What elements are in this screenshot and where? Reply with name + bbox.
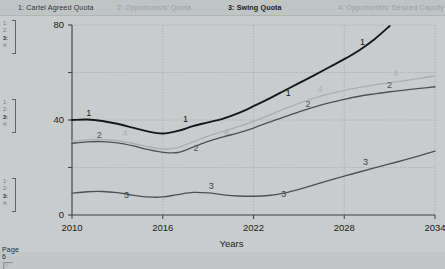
document-footer-strip [0, 252, 445, 269]
series-1-marker-label: 1 [86, 108, 91, 118]
legend-item-4[interactable]: 4: Opportunists' Desired Capcity [338, 2, 444, 13]
series-2-marker-label: 2 [97, 130, 102, 140]
series-3-marker-label: 3 [363, 157, 368, 167]
series-3-marker-label: 3 [209, 181, 214, 191]
series-2-marker-label: 2 [387, 80, 392, 90]
series-4-marker-label: 4 [318, 84, 323, 94]
chart-gridlines [72, 25, 435, 215]
line-chart: 1111222233334444 04080201020162022202820… [16, 15, 445, 252]
rail-bracket-2: 1: 2: 3: 4: [3, 99, 16, 133]
series-3-marker-label: 3 [124, 190, 129, 200]
series-2-marker-label: 2 [305, 99, 310, 109]
legend-item-1[interactable]: 1: Cartel Agreed Quota [18, 2, 94, 13]
page-curl-edge-icon [3, 262, 13, 269]
rail-bracket-1-line-3: 3: [3, 35, 15, 42]
rail-bracket-2-line-2: 2: [3, 106, 15, 113]
legend-item-3[interactable]: 3: Swing Quota [228, 2, 282, 13]
xtick-label-2022: 2022 [243, 222, 264, 233]
chart-legend: 1: Cartel Agreed Quota 2: Opportunists' … [0, 0, 445, 16]
chart-point-labels: 1111222233334444 [86, 37, 398, 200]
rail-bracket-2-line-4: 4: [3, 121, 15, 128]
rail-bracket-2-line-3: 3: [3, 114, 15, 121]
rail-bracket-2-line-1: 1: [3, 99, 15, 106]
rail-bracket-3-line-4: 4: [3, 200, 15, 207]
rail-bracket-1-line-2: 2: [3, 27, 15, 34]
series-3-marker-label: 3 [281, 189, 286, 199]
xtick-label-2016: 2016 [152, 222, 173, 233]
left-rail: 1: 2: 3: 4: 1: 2: 3: 4: 1: 2: 3: 4: Page… [0, 15, 16, 252]
rail-bracket-3-line-3: 3: [3, 193, 15, 200]
xtick-label-2034: 2034 [424, 222, 445, 233]
rail-bracket-3-line-2: 2: [3, 185, 15, 192]
rail-bracket-3-line-1: 1: [3, 178, 15, 185]
screenshot-root: 1: Cartel Agreed Quota 2: Opportunists' … [0, 0, 445, 269]
series-line-1 [72, 26, 390, 134]
rail-bracket-1: 1: 2: 3: 4: [3, 20, 16, 54]
series-2-marker-label: 2 [194, 143, 199, 153]
ytick-label-80: 80 [53, 19, 64, 30]
series-1-marker-label: 1 [360, 37, 365, 47]
rail-bracket-1-line-1: 1: [3, 20, 15, 27]
xtick-label-2028: 2028 [334, 222, 355, 233]
ytick-label-40: 40 [53, 114, 64, 125]
chart-area: 1111222233334444 04080201020162022202820… [16, 15, 445, 252]
xtick-label-2010: 2010 [61, 222, 82, 233]
series-4-marker-label: 4 [224, 127, 229, 137]
legend-item-2[interactable]: 2: Opportunists' Quota [117, 2, 191, 13]
series-1-marker-label: 1 [183, 114, 188, 124]
rail-bracket-1-line-4: 4: [3, 42, 15, 49]
series-1-marker-label: 1 [286, 88, 291, 98]
rail-bracket-3: 1: 2: 3: 4: [3, 178, 16, 212]
ytick-label-0: 0 [59, 209, 64, 220]
series-4-marker-label: 4 [122, 128, 127, 138]
series-4-marker-label: 4 [393, 68, 398, 78]
x-axis-title: Years [220, 238, 244, 249]
